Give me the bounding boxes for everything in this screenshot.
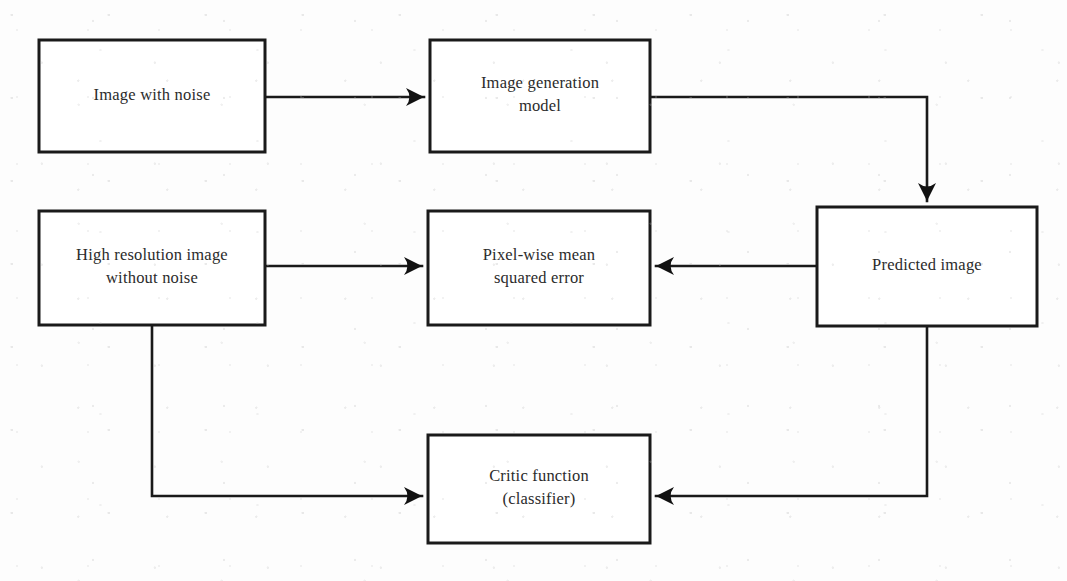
node-label: squared error: [494, 268, 584, 287]
flowchart-canvas: Image with noiseImage generationmodelHig…: [0, 0, 1067, 581]
edge-predicted-to-mse: [656, 257, 817, 275]
node-label: (classifier): [503, 489, 576, 508]
edge-predicted-to-critic: [656, 326, 927, 505]
node-label: without noise: [106, 268, 198, 287]
node-high-resolution-image-without-noise[interactable]: High resolution imagewithout noise: [39, 211, 265, 325]
node-label: High resolution image: [76, 245, 228, 264]
node-label: Image with noise: [94, 85, 211, 104]
node-pixel-wise-mean-squared-error[interactable]: Pixel-wise meansquared error: [428, 211, 650, 325]
node-label: Image generation: [481, 73, 599, 92]
edge-highres-to-critic: [152, 325, 422, 505]
node-label: Predicted image: [872, 255, 982, 274]
node-predicted-image[interactable]: Predicted image: [817, 207, 1037, 326]
node-image-with-noise[interactable]: Image with noise: [39, 40, 265, 152]
node-label: model: [519, 96, 561, 115]
node-critic-function-classifier[interactable]: Critic function(classifier): [428, 435, 650, 543]
nodes-layer: Image with noiseImage generationmodelHig…: [39, 40, 1037, 543]
node-label: Pixel-wise mean: [483, 245, 596, 264]
edge-noise-to-generator: [265, 88, 424, 106]
node-image-generation-model[interactable]: Image generationmodel: [430, 40, 650, 152]
edge-generator-to-predicted: [650, 97, 936, 201]
edge-highres-to-mse: [265, 257, 422, 275]
flowchart-svg: Image with noiseImage generationmodelHig…: [0, 0, 1067, 581]
node-label: Critic function: [489, 466, 589, 485]
